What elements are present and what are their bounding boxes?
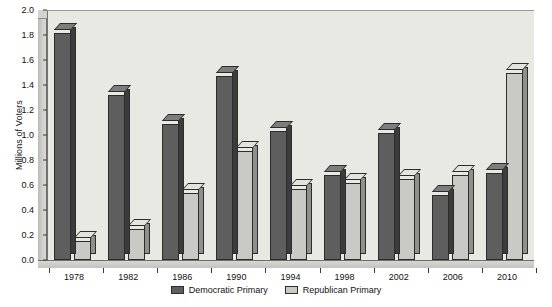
bar-front-face bbox=[182, 193, 199, 261]
bar-front-face bbox=[324, 175, 341, 260]
y-axis-tick-label: 0.4 bbox=[21, 205, 38, 215]
y-axis-tick-label: 0.2 bbox=[21, 230, 38, 240]
x-axis-tick-label: 1990 bbox=[226, 272, 246, 282]
legend-item-label: Democratic Primary bbox=[189, 285, 268, 295]
x-axis-tick-label: 1998 bbox=[335, 272, 355, 282]
bar-front-face bbox=[398, 179, 415, 260]
legend-swatch-icon bbox=[171, 286, 184, 294]
bar-group bbox=[270, 10, 315, 260]
y-axis-tick-label: 1.2 bbox=[21, 105, 38, 115]
bar-front-face bbox=[74, 241, 91, 260]
legend-item-label: Republican Primary bbox=[303, 285, 382, 295]
bar-front-face bbox=[108, 95, 125, 260]
bar-groups bbox=[47, 10, 534, 260]
x-axis-tick-label: 2010 bbox=[497, 272, 517, 282]
bar-group bbox=[54, 10, 99, 260]
y-axis-tick-label: 0.6 bbox=[21, 180, 38, 190]
bar-front-face bbox=[216, 76, 233, 260]
legend-item-democratic[interactable]: Democratic Primary bbox=[171, 285, 268, 295]
bar-group bbox=[162, 10, 207, 260]
x-axis-tick-mark bbox=[320, 268, 321, 273]
x-axis-tick-label: 1982 bbox=[118, 272, 138, 282]
bar-front-face bbox=[128, 229, 145, 260]
chart-floor bbox=[38, 260, 534, 268]
bar-group bbox=[432, 10, 477, 260]
x-axis-tick-mark bbox=[482, 268, 483, 273]
bar-group bbox=[108, 10, 153, 260]
bar-group bbox=[324, 10, 369, 260]
bar-front-face bbox=[162, 124, 179, 260]
bar-front-face bbox=[54, 33, 71, 261]
bar-group bbox=[216, 10, 261, 260]
chart-legend: Democratic PrimaryRepublican Primary bbox=[0, 285, 552, 295]
x-axis-tick-label: 2002 bbox=[389, 272, 409, 282]
bar-front-face bbox=[378, 133, 395, 261]
x-axis-tick-mark bbox=[49, 268, 50, 273]
x-axis-tick-mark bbox=[428, 268, 429, 273]
y-axis-tick-label: 0.8 bbox=[21, 155, 38, 165]
bar-front-face bbox=[432, 195, 449, 260]
x-axis-tick-mark bbox=[536, 268, 537, 273]
x-axis-tick-label: 1994 bbox=[280, 272, 300, 282]
legend-item-republican[interactable]: Republican Primary bbox=[285, 285, 382, 295]
bar-front-face bbox=[344, 183, 361, 261]
x-axis-tick-mark bbox=[157, 268, 158, 273]
y-axis-tick-label: 1.0 bbox=[21, 130, 38, 140]
x-axis-tick-mark bbox=[374, 268, 375, 273]
bar-front-face bbox=[290, 189, 307, 260]
legend-swatch-icon bbox=[285, 286, 298, 294]
y-axis-tick-label: 1.6 bbox=[21, 55, 38, 65]
plot-area: 0.00.20.40.60.81.01.21.41.61.82.0 bbox=[38, 10, 534, 268]
bar-front-face bbox=[506, 73, 523, 261]
x-axis-labels: 197819821986199019941998200220062010 bbox=[38, 272, 534, 286]
bar-front-face bbox=[486, 173, 503, 261]
bar-group bbox=[378, 10, 423, 260]
x-axis-tick-label: 2006 bbox=[443, 272, 463, 282]
bar-group bbox=[486, 10, 531, 260]
y-axis-tick-label: 1.8 bbox=[21, 30, 38, 40]
x-axis-tick-mark bbox=[265, 268, 266, 273]
bar-chart: Millions of Voters 0.00.20.40.60.81.01.2… bbox=[0, 0, 552, 307]
y-axis-tick-label: 0.0 bbox=[21, 255, 38, 265]
bar-front-face bbox=[236, 151, 253, 260]
bar-front-face bbox=[452, 175, 469, 260]
x-axis-tick-label: 1986 bbox=[172, 272, 192, 282]
x-axis-tick-label: 1978 bbox=[64, 272, 84, 282]
x-axis-tick-mark bbox=[103, 268, 104, 273]
y-axis-tick-label: 2.0 bbox=[21, 5, 38, 15]
bar-front-face bbox=[270, 131, 287, 260]
x-axis-tick-mark bbox=[211, 268, 212, 273]
y-axis-tick-label: 1.4 bbox=[21, 80, 38, 90]
